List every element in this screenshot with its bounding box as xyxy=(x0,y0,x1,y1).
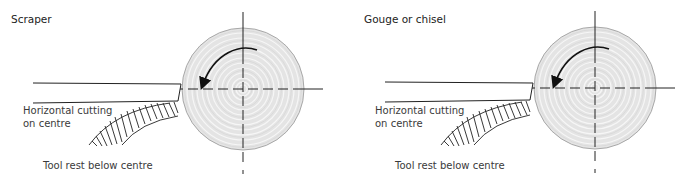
panel-scraper: Scraper Horizontal cutting on centre Too… xyxy=(0,0,346,187)
gouge-tool-icon xyxy=(385,82,533,102)
panel-title: Gouge or chisel xyxy=(364,13,446,25)
cutting-label-line2: on centre xyxy=(375,118,423,130)
tool-rest-label: Tool rest below centre xyxy=(43,160,153,172)
panel-title: Scraper xyxy=(11,13,52,25)
scraper-diagram xyxy=(0,0,346,187)
cutting-label-line1: Horizontal cutting xyxy=(23,105,112,117)
cutting-label-line1: Horizontal cutting xyxy=(375,105,464,117)
cutting-label-line2: on centre xyxy=(23,118,71,130)
tool-rest-label: Tool rest below centre xyxy=(395,160,505,172)
panel-gouge-chisel: Gouge or chisel Horizontal cutting on ce… xyxy=(352,0,693,187)
gouge-diagram xyxy=(352,0,693,187)
scraper-tool-icon xyxy=(33,83,181,103)
